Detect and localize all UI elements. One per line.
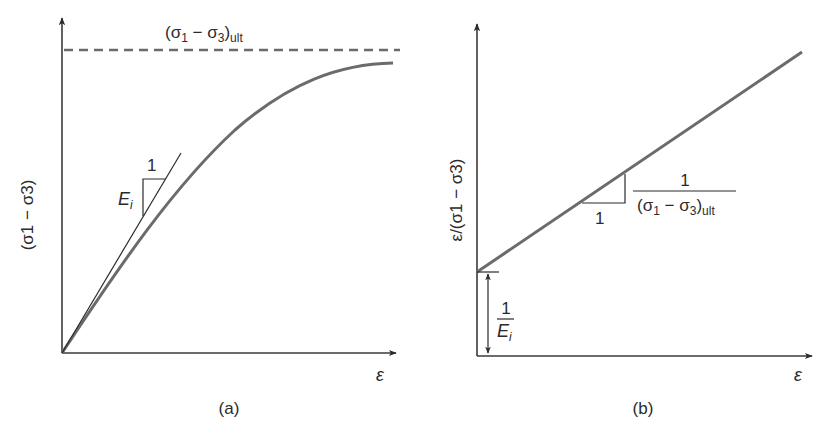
intercept-fraction-label: 1 Ei [497,299,514,344]
asymptote-label: (σ1 − σ3)ult [165,23,243,45]
transformed-line [477,52,802,272]
panel-a: 1 Ei (σ1 − σ3)ult (σ1 − σ3) ε (a) [18,18,400,418]
initial-tangent-line [62,153,181,353]
svg-text:1: 1 [680,171,689,190]
panel-b-y-axis-label: ε/(σ1 − σ3) [447,159,466,242]
slope-run-label-a: 1 [147,156,156,175]
panel-b-caption: (b) [633,399,654,418]
panel-a-x-axis-label: ε [376,365,385,385]
panel-b: 1 1 (σ1 − σ3)ult 1 Ei ε/(σ1 − σ3) ε (b) [447,24,812,418]
svg-text:(σ1 − σ3)ult: (σ1 − σ3)ult [637,196,715,218]
panel-b-x-axis-label: ε [794,365,803,385]
slope-fraction-label: 1 (σ1 − σ3)ult [633,171,736,218]
svg-text:Ei: Ei [497,321,512,344]
slope-triangle-b [582,174,625,203]
slope-rise-label-a: Ei [118,189,133,212]
figure-canvas: 1 Ei (σ1 − σ3)ult (σ1 − σ3) ε (a) 1 1 (σ… [0,0,819,432]
svg-text:1: 1 [501,299,510,318]
panel-a-y-axis-label: (σ1 − σ3) [18,180,37,251]
panel-a-caption: (a) [219,399,240,418]
slope-run-label-b: 1 [595,209,604,228]
stress-strain-curve [62,63,393,353]
